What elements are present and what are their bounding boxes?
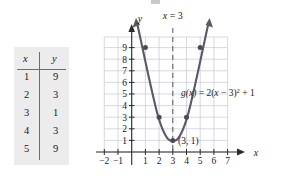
table-cell-x: 3	[24, 107, 29, 118]
function-label: g(x) = 2(x − 3)2 + 1	[181, 87, 255, 100]
y-tick-label: 5	[122, 89, 127, 99]
table-cell-x: 1	[24, 71, 29, 82]
x-axis-label: x	[253, 147, 259, 158]
x-tick-label: 5	[198, 156, 203, 166]
curve-arrowhead-right	[206, 18, 213, 27]
table-header-x: x	[23, 53, 28, 64]
y-tick-label: 7	[122, 66, 127, 76]
table-cell-x: 5	[24, 143, 29, 154]
table-header-row: x y	[14, 53, 69, 67]
y-tick-label: 3	[122, 113, 127, 123]
y-tick-labels: 1 2 3 4 5 6 7 8 9	[122, 43, 127, 146]
axis-of-symmetry-label: x = 3	[162, 10, 183, 21]
point-2-3	[157, 115, 162, 120]
y-tick-label: 4	[122, 101, 127, 111]
table-cell-x: 2	[24, 89, 29, 100]
x-tick-label: 7	[225, 156, 230, 166]
figure-container: x y 1 9 2 3 3 1 4 3 5 9	[0, 0, 286, 180]
y-axis-label: y	[137, 13, 143, 24]
point-5-9	[198, 45, 203, 50]
value-table-inner: x y 1 9 2 3 3 1 4 3 5 9	[14, 47, 69, 165]
point-3-1-vertex	[170, 138, 175, 143]
table-row: 4 3	[14, 125, 69, 143]
graph-panel: −2 −1 1 2 3 4 5 6 7 1 2 3 4 5 6 7 8 9	[96, 0, 286, 180]
table-row: 1 9	[14, 71, 69, 89]
parabola-graph-svg: −2 −1 1 2 3 4 5 6 7 1 2 3 4 5 6 7 8 9	[96, 0, 286, 180]
table-row: 3 1	[14, 107, 69, 125]
x-tick-labels: −2 −1 1 2 3 4 5 6 7	[99, 156, 230, 166]
table-cell-y: 9	[53, 143, 58, 154]
table-header-rule	[17, 69, 66, 70]
x-tick-label: −1	[113, 156, 123, 166]
table-cell-y: 3	[53, 89, 58, 100]
y-tick-label: 9	[122, 43, 127, 53]
x-tick-label: 3	[170, 156, 175, 166]
table-cell-y: 9	[53, 71, 58, 82]
value-table: x y 1 9 2 3 3 1 4 3 5 9	[14, 47, 69, 165]
x-tick-label: 4	[184, 156, 189, 166]
table-cell-y: 1	[53, 107, 58, 118]
table-cell-x: 4	[24, 125, 29, 136]
vertex-label: (3, 1)	[178, 136, 199, 147]
x-tick-label: 1	[143, 156, 148, 166]
x-tick-label: 6	[212, 156, 217, 166]
table-row: 5 9	[14, 143, 69, 161]
y-tick-label: 6	[122, 78, 127, 88]
y-tick-label: 1	[122, 136, 127, 146]
table-row: 2 3	[14, 89, 69, 107]
table-cell-y: 3	[53, 125, 58, 136]
x-axis-arrowhead	[237, 149, 245, 156]
x-tick-label: −2	[99, 156, 109, 166]
point-4-3	[184, 115, 189, 120]
table-header-y: y	[52, 53, 57, 64]
point-1-9	[143, 45, 148, 50]
y-tick-label: 2	[122, 124, 127, 134]
x-tick-label: 2	[157, 156, 162, 166]
y-tick-label: 8	[122, 55, 127, 65]
